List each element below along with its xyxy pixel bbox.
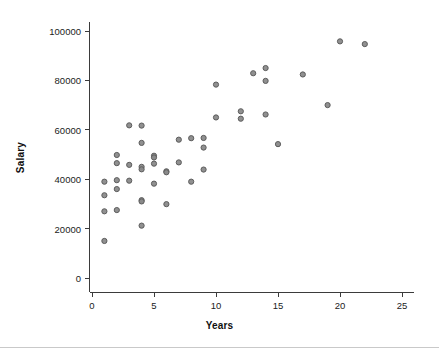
x-tick-label: 5 [151, 300, 156, 311]
data-point [127, 178, 132, 183]
data-point [114, 161, 119, 166]
data-point [263, 65, 268, 70]
data-point [189, 179, 194, 184]
data-point [102, 193, 107, 198]
data-point [201, 135, 206, 140]
data-point [238, 109, 243, 114]
data-point [201, 167, 206, 172]
data-point [114, 152, 119, 157]
data-point [201, 145, 206, 150]
data-point [127, 162, 132, 167]
data-point [251, 71, 256, 76]
data-point [127, 123, 132, 128]
x-tick-label: 15 [273, 300, 284, 311]
data-point [114, 178, 119, 183]
y-tick-label: 20000 [10, 223, 81, 234]
x-tick-label: 20 [335, 300, 346, 311]
data-point [176, 137, 181, 142]
data-point [139, 123, 144, 128]
data-point [151, 155, 156, 160]
data-point [102, 179, 107, 184]
data-point [164, 170, 169, 175]
data-point [102, 209, 107, 214]
x-tick-label: 0 [89, 300, 94, 311]
data-point [139, 167, 144, 172]
x-tick-label: 25 [397, 300, 408, 311]
data-point [164, 202, 169, 207]
data-point [151, 161, 156, 166]
axes-group [85, 22, 414, 297]
y-tick-label: 80000 [10, 75, 81, 86]
data-point [300, 72, 305, 77]
data-point [139, 140, 144, 145]
data-point [114, 207, 119, 212]
data-point [139, 199, 144, 204]
data-point [102, 238, 107, 243]
data-point [337, 39, 342, 44]
data-point [213, 115, 218, 120]
data-point [176, 160, 181, 165]
data-points-group [102, 39, 368, 244]
data-point [114, 186, 119, 191]
data-point [263, 78, 268, 83]
x-axis-title: Years [0, 320, 439, 331]
data-point [263, 112, 268, 117]
y-axis-title: Salary [15, 118, 26, 198]
data-point [275, 142, 280, 147]
x-tick-label: 10 [211, 300, 222, 311]
data-point [238, 116, 243, 121]
data-point [325, 103, 330, 108]
data-point [139, 223, 144, 228]
scatter-plot-figure: 020000400006000080000100000 0510152025 Y… [0, 0, 439, 348]
data-point [213, 82, 218, 87]
data-point [151, 181, 156, 186]
data-point [362, 41, 367, 46]
data-point [189, 136, 194, 141]
y-tick-label: 100000 [10, 26, 81, 37]
y-tick-label: 0 [10, 273, 81, 284]
